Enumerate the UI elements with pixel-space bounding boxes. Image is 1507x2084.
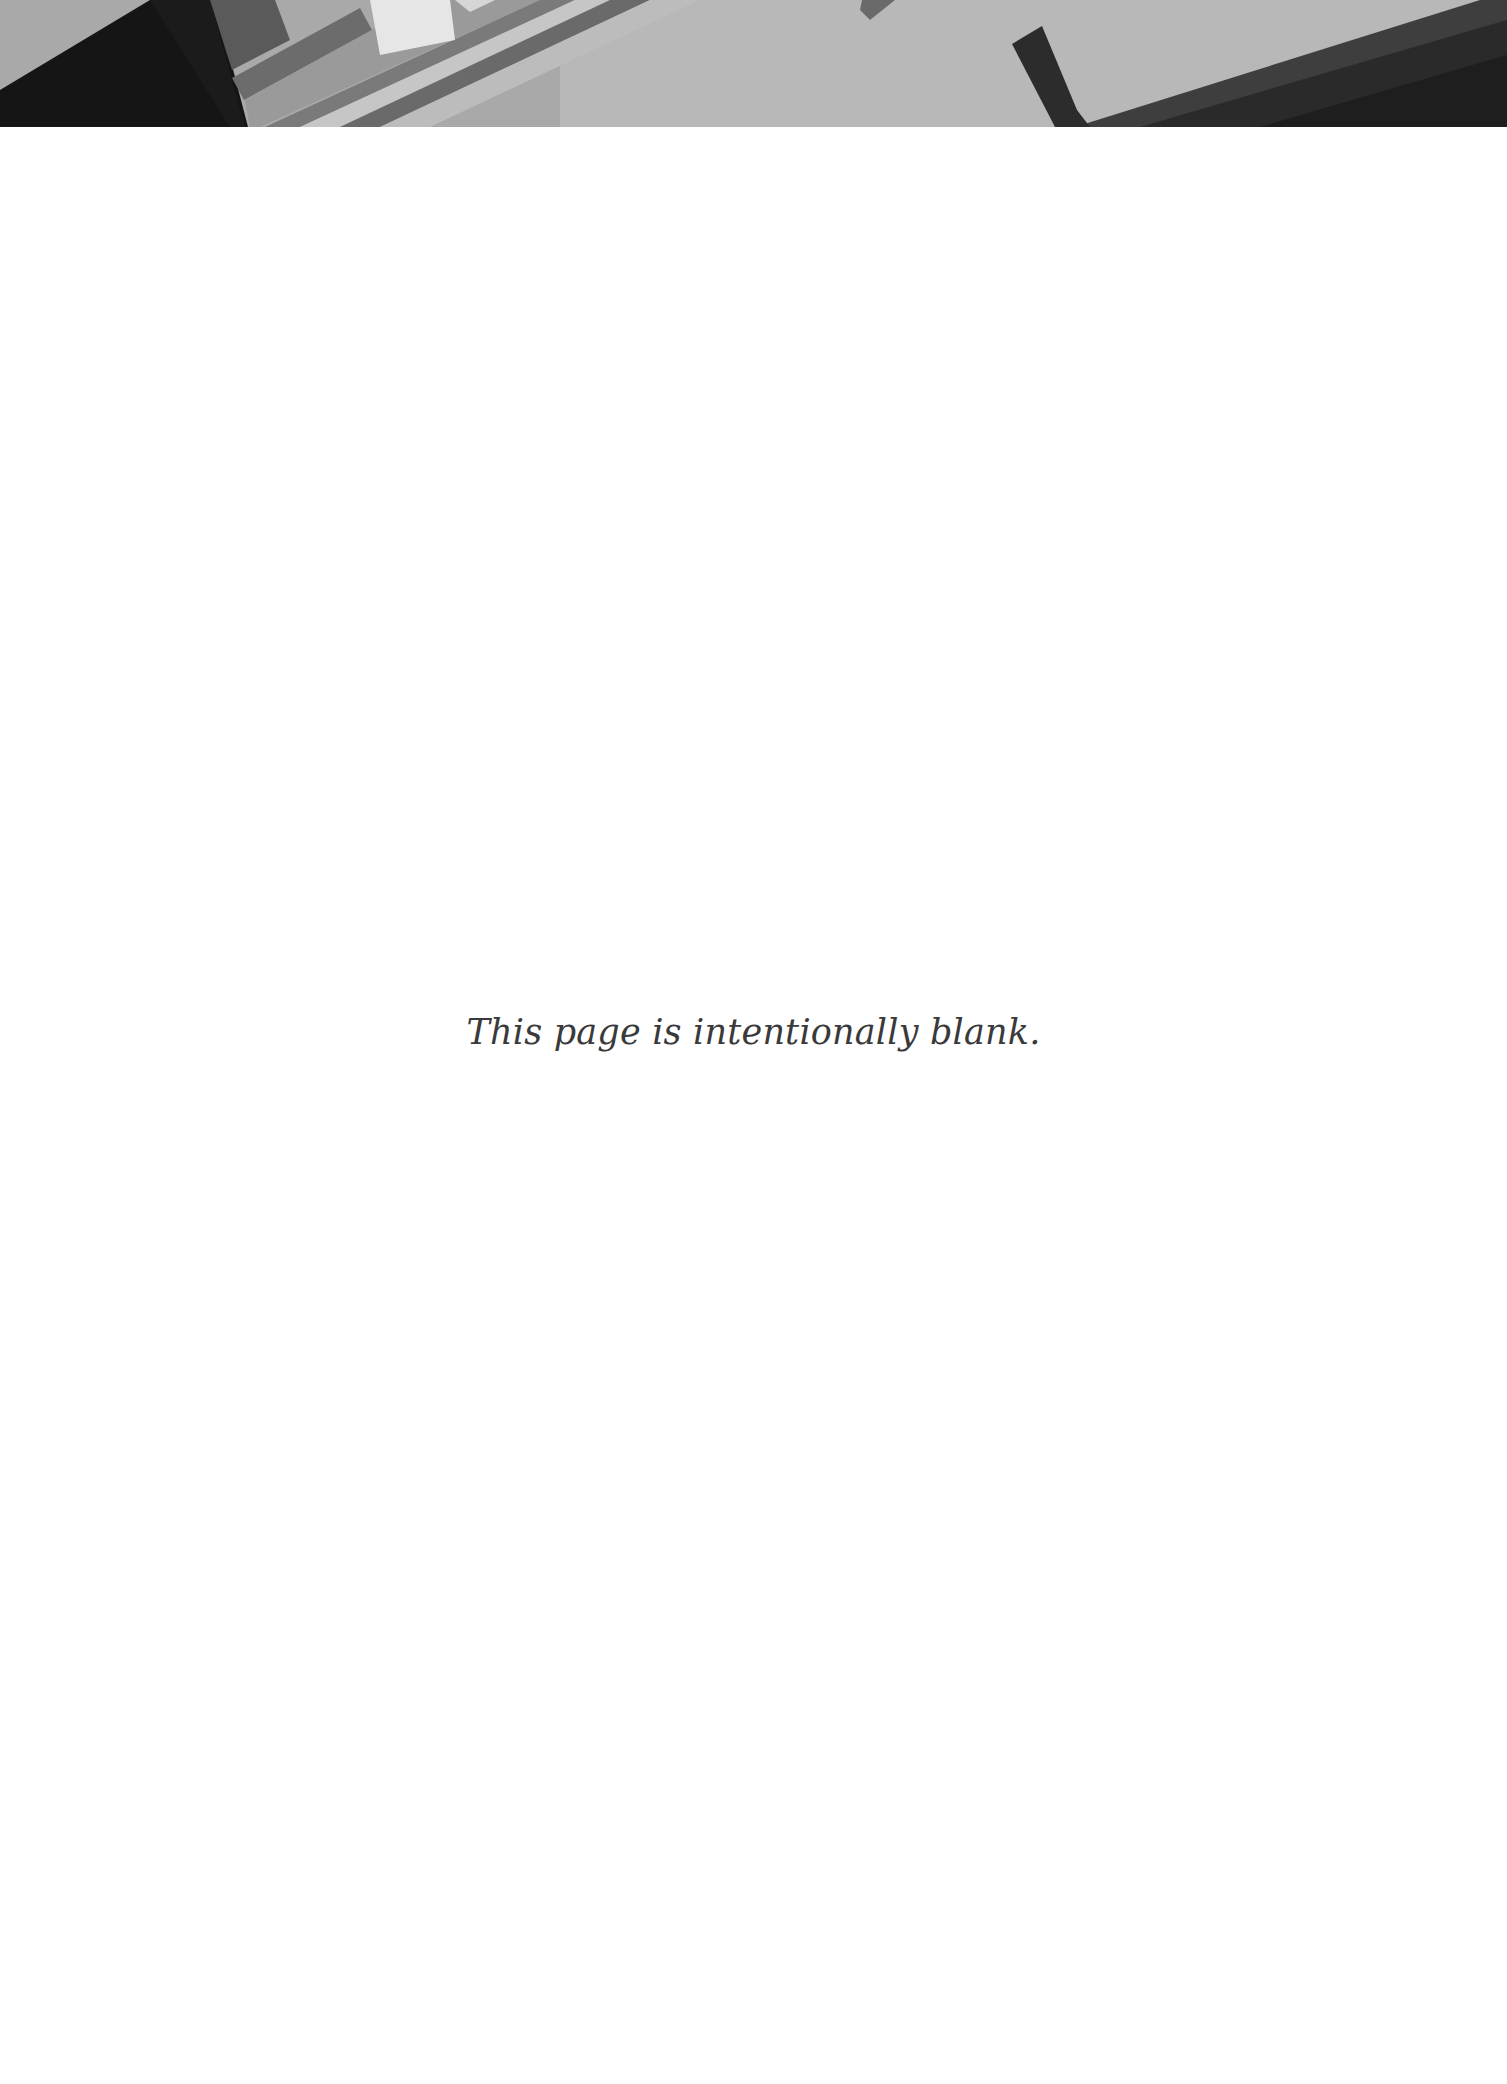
- document-page: This page is intentionally blank.: [0, 0, 1507, 2084]
- header-banner-image: [0, 0, 1507, 127]
- intentionally-blank-notice: This page is intentionally blank.: [0, 1012, 1507, 1052]
- abstract-geometric-banner-graphic: [0, 0, 1507, 127]
